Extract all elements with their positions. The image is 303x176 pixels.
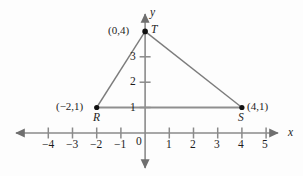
x-tick-label-minus3: −3: [66, 139, 78, 151]
x-tick-label-4: 4: [238, 139, 244, 151]
x-tick-label-3: 3: [214, 139, 220, 151]
origin-label: 0: [136, 136, 142, 148]
x-tick-label-5: 5: [262, 139, 268, 151]
y-axis-label: y: [150, 7, 155, 19]
point-s-coordinate-label: (4,1): [247, 101, 268, 112]
x-tick-label-1: 1: [166, 139, 172, 151]
point-r-name-label: R: [93, 112, 100, 124]
point-t: [142, 29, 148, 35]
y-tick-label-2: 2: [130, 76, 136, 88]
point-s: [239, 105, 244, 110]
x-tick-label-2: 2: [190, 139, 196, 151]
point-s-name-label: S: [238, 112, 244, 124]
point-r-coordinate-label: (−2,1): [56, 101, 83, 112]
x-axis-label: x: [288, 127, 293, 139]
vertices: [94, 29, 244, 111]
segment-ts: [145, 31, 242, 107]
coordinate-plane-figure: y x 0 1 2 3 −4 −3 −2 −1 1 2 3 4 5 (0,4) …: [0, 0, 303, 176]
segment-rt: [97, 31, 145, 107]
y-tick-label-1: 1: [130, 102, 136, 114]
x-tick-label-minus4: −4: [42, 139, 54, 151]
point-t-coordinate-label: (0,4): [108, 25, 129, 36]
point-r: [94, 105, 99, 110]
triangle-rst: [97, 31, 242, 107]
x-tick-label-minus1: −1: [114, 139, 126, 151]
x-tick-label-minus2: −2: [90, 139, 102, 151]
x-axis: [16, 128, 278, 139]
point-t-name-label: T: [151, 24, 157, 36]
y-tick-label-3: 3: [130, 51, 136, 63]
